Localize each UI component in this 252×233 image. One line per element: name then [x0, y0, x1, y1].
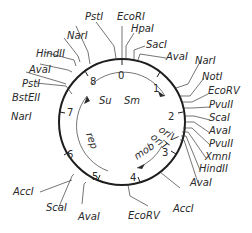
site-avai-right2: AvaI — [189, 177, 212, 188]
site-scai-right: ScaI — [209, 112, 230, 123]
site-hpai: HpaI — [131, 23, 154, 34]
site-acci-right: AccI — [172, 203, 194, 214]
site-xmni: XmnI — [204, 151, 231, 162]
site-ecori: EcoRI — [117, 11, 145, 22]
site-avai-top: AvaI — [165, 51, 188, 62]
tick-1: 1 — [153, 83, 159, 94]
tick-5: 5 — [92, 171, 98, 182]
site-avai-bottom: AvaI — [77, 211, 100, 222]
site-avai-left: AvaI — [28, 64, 51, 75]
site-pvuii-1: PvuII — [209, 99, 233, 110]
site-pvuii-2: PvuII — [209, 138, 233, 149]
site-nari-left: NarI — [11, 111, 32, 122]
tick-4: 4 — [130, 172, 136, 183]
tick-7: 7 — [67, 107, 73, 118]
gene-rep: rep — [84, 131, 100, 150]
site-nari-right: NarI — [195, 55, 216, 66]
site-hindii-right: HindII — [199, 163, 228, 174]
site-psti-left: PstI — [22, 78, 40, 89]
tick-6: 6 — [67, 149, 73, 160]
plasmid-map: 0 1 2 3 4 5 6 7 8 Su Sm rep mob oriV ori… — [0, 0, 252, 233]
site-ecorv-right: EcoRV — [208, 85, 241, 96]
site-ecorv-bottom: EcoRV — [128, 210, 161, 221]
gene-su: Su — [99, 95, 112, 106]
site-psti-top: PstI — [85, 11, 103, 22]
tick-8: 8 — [90, 76, 96, 87]
site-hindii-left: HindII — [36, 48, 65, 59]
site-scai-left: ScaI — [46, 202, 67, 213]
site-avai-right: AvaI — [208, 125, 231, 136]
site-acci-left: AccI — [12, 186, 34, 197]
site-noti: NotI — [202, 71, 223, 82]
tick-0: 0 — [118, 70, 124, 81]
site-saci: SacI — [146, 39, 167, 50]
mob-arrow-icon — [137, 164, 145, 169]
rep-arrow-icon — [84, 96, 90, 104]
tick-2: 2 — [168, 111, 174, 122]
site-bsteii: BstEII — [12, 92, 40, 103]
gene-sm: Sm — [124, 95, 140, 106]
site-nari-top: NarI — [67, 30, 88, 41]
